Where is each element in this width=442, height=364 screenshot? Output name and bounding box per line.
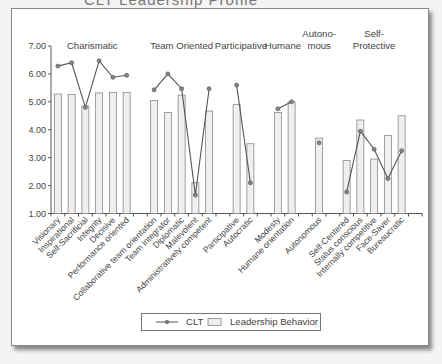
clt-point	[248, 181, 252, 185]
behavior-bar	[54, 94, 61, 213]
behavior-bar	[233, 105, 240, 214]
clt-point	[372, 147, 376, 151]
group-header: Humane	[265, 40, 301, 51]
clt-point	[125, 73, 129, 77]
legend: CLT Leadership Behavior	[141, 313, 321, 331]
clt-point	[111, 75, 115, 79]
behavior-bar	[82, 106, 89, 213]
group-header: Team Oriented	[150, 40, 213, 51]
bar-legend-icon	[208, 319, 221, 326]
clt-point	[70, 61, 74, 65]
chart: 1.002.003.004.005.006.007.00VisionaryIns…	[0, 0, 442, 364]
group-header: Participative	[215, 40, 267, 51]
legend-clt-label: CLT	[186, 316, 203, 327]
group-header: Charismatic	[67, 40, 118, 51]
behavior-bar	[68, 95, 75, 214]
clt-point	[180, 87, 184, 91]
behavior-bar	[371, 159, 378, 213]
behavior-bar	[316, 138, 323, 213]
clt-point	[290, 100, 294, 104]
behavior-bar	[288, 102, 295, 214]
behavior-bar	[151, 100, 158, 213]
behavior-bar	[192, 183, 199, 214]
group-header: Autono-	[302, 28, 336, 39]
y-tick-label: 1.00	[28, 209, 46, 219]
clt-point	[317, 141, 321, 145]
clt-point	[386, 177, 390, 181]
behavior-bar	[109, 92, 116, 213]
y-tick-label: 6.00	[28, 69, 46, 79]
clt-point	[97, 59, 101, 63]
clt-point	[400, 149, 404, 153]
y-tick-label: 7.00	[28, 41, 46, 51]
group-header: Protective	[353, 40, 396, 51]
clt-point	[166, 72, 170, 76]
legend-behavior-label: Leadership Behavior	[230, 316, 318, 327]
group-header: Self-	[364, 28, 384, 39]
behavior-bar	[96, 93, 103, 214]
y-tick-label: 4.00	[28, 125, 46, 135]
clt-point	[345, 190, 349, 194]
behavior-bar	[398, 116, 405, 214]
clt-point	[56, 64, 60, 68]
clt-legend-icon	[156, 320, 178, 324]
y-tick-label: 3.00	[28, 153, 46, 163]
y-tick-label: 5.00	[28, 97, 46, 107]
behavior-bar	[247, 144, 254, 214]
clt-point	[358, 129, 362, 133]
behavior-bar	[164, 112, 171, 213]
clt-point	[235, 83, 239, 87]
behavior-bar	[178, 95, 185, 213]
y-tick-label: 2.00	[28, 181, 46, 191]
behavior-bar	[123, 92, 130, 213]
clt-point	[193, 193, 197, 197]
behavior-bar	[343, 160, 350, 213]
clt-point	[152, 88, 156, 92]
clt-point	[207, 87, 211, 91]
behavior-bar	[206, 111, 213, 213]
group-header: mous	[307, 40, 331, 51]
behavior-bar	[274, 112, 281, 213]
clt-point	[83, 105, 87, 109]
clt-point	[276, 107, 280, 111]
